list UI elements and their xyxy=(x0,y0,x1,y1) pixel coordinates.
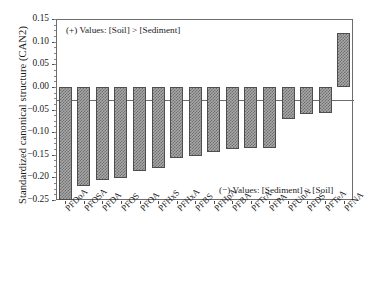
bar-PFDS xyxy=(300,87,313,114)
bar-PFHxA xyxy=(170,87,183,158)
bar-PFDA xyxy=(96,87,109,180)
y-tick-label: 0.00 xyxy=(9,82,49,91)
bar-PFNA xyxy=(337,33,350,86)
bar-PFBS xyxy=(189,87,202,156)
y-tick-label: −0.15 xyxy=(9,150,49,159)
bar-PFUnA xyxy=(282,87,295,120)
bar-series xyxy=(56,19,353,200)
y-tick-label: 0.10 xyxy=(9,37,49,46)
bar-PFOA xyxy=(133,87,146,171)
chart-figure: Standardized canonical structure (CAN2) … xyxy=(0,0,371,283)
x-axis-tick-labels: PFDoAPFOSAPFDAPFOSPFOAPFHxSPFHxAPFBSPFHp… xyxy=(56,201,353,261)
bar-PFTeA xyxy=(319,87,332,113)
y-tick-label: −0.25 xyxy=(9,195,49,204)
bar-PFOSA xyxy=(77,87,90,186)
bar-PFOS xyxy=(114,87,127,178)
annotation-positive: (+) Values: [Soil] > [Sediment] xyxy=(66,25,180,35)
y-tick-label: 0.05 xyxy=(9,59,49,68)
bar-PFTrA xyxy=(244,87,257,148)
bar-PFDoA xyxy=(59,87,72,200)
bar-PFHpA xyxy=(207,87,220,152)
bar-PFHxS xyxy=(152,87,165,168)
bar-PFBA xyxy=(226,87,239,149)
y-tick-label: −0.10 xyxy=(9,127,49,136)
y-tick-label: 0.15 xyxy=(9,14,49,23)
y-tick-label: −0.20 xyxy=(9,172,49,181)
bar-PFPA xyxy=(263,87,276,148)
y-tick-label: −0.05 xyxy=(9,105,49,114)
